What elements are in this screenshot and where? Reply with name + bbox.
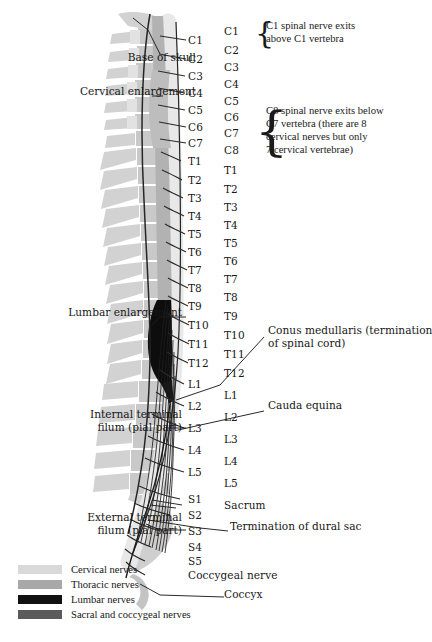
spinal-nerve-label: T1 — [188, 155, 202, 167]
vertebra-label: Sacrum — [224, 499, 266, 511]
legend-label: Cervical nerves — [71, 564, 137, 575]
c8-note-annotation: {C8 spinal nerve exits belowC7 vertebra … — [255, 105, 384, 157]
spinal-nerve-label: T11 — [188, 338, 209, 350]
vertebra-label: L2 — [224, 411, 238, 423]
spinal-nerve-label: C6 — [188, 121, 203, 133]
spinal-nerve-label: T2 — [188, 174, 202, 186]
spinal-nerve-label: S4 — [188, 541, 202, 553]
termination-of-dural-sac-label: Termination of dural sac — [230, 520, 361, 533]
cervical-enlargement-shape — [149, 70, 171, 148]
spinal-nerve-label: T10 — [188, 319, 209, 331]
spinal-nerve-label: T4 — [188, 210, 202, 222]
legend-label: Lumbar nerves — [71, 594, 135, 605]
internal-terminal-filum-label: Internal terminalfilum (pial part) — [56, 408, 182, 433]
vertebra-label: Coccyx — [224, 588, 263, 600]
spinal-nerve-label: T6 — [188, 246, 202, 258]
vertebra-label: T11 — [224, 348, 245, 360]
vertebra-label: L1 — [224, 389, 238, 401]
vertebra-label: T1 — [224, 164, 238, 176]
legend-item: Cervical nerves — [18, 562, 191, 577]
vertebra-label: C2 — [224, 44, 239, 56]
vertebra-label: C4 — [224, 78, 239, 90]
vertebra-label: C7 — [224, 127, 239, 139]
vertebra-label: T10 — [224, 329, 245, 341]
conus-medullaris-label: Conus medullaris (terminationof spinal c… — [268, 324, 432, 350]
vertebra-label: C3 — [224, 61, 239, 73]
vertebra-label: T6 — [224, 255, 238, 267]
spinal-nerve-label: L5 — [188, 466, 202, 478]
curly-brace-icon: { — [255, 18, 274, 48]
spinal-nerve-label: T5 — [188, 228, 202, 240]
vertebra-label: C5 — [224, 95, 239, 107]
spinal-nerve-label: T3 — [188, 192, 202, 204]
legend-swatch — [18, 595, 62, 604]
lumbar-enlargement-label: Lumbar enlargement — [18, 306, 182, 319]
vertebra-label: L4 — [224, 455, 238, 467]
cauda-equina-label: Cauda equina — [268, 399, 342, 412]
c1-note-annotation: {C1 spinal nerve exitsabove C1 vertebra — [255, 20, 355, 46]
spinal-nerve-label: Coccygeal nerve — [188, 569, 278, 581]
vertebra-label: T8 — [224, 291, 238, 303]
vertebra-label: T12 — [224, 367, 245, 379]
spinal-nerve-label: L3 — [188, 422, 202, 434]
legend-item: Sacral and coccygeal nerves — [18, 607, 191, 622]
cervical-enlargement-label: Cervical enlargement — [28, 85, 196, 98]
spinal-nerve-label: L2 — [188, 400, 202, 412]
vertebra-label: L3 — [224, 433, 238, 445]
spinal-nerve-label: T8 — [188, 282, 202, 294]
vertebra-label: T4 — [224, 219, 238, 231]
legend-swatch — [18, 565, 62, 574]
vertebra-label: T7 — [224, 273, 238, 285]
external-terminal-filum-label: External terminalfilum (pial part) — [42, 511, 182, 536]
spinal-nerve-label: C1 — [188, 34, 203, 46]
vertebra-label: T2 — [224, 183, 238, 195]
spinal-nerve-label: S2 — [188, 509, 202, 521]
spinal-nerve-label: L4 — [188, 444, 202, 456]
base-of-skull-label: Base of skull — [86, 51, 196, 64]
vertebra-label: C6 — [224, 111, 239, 123]
vertebra-label: T9 — [224, 310, 238, 322]
c1-note-text: C1 spinal nerve exitsabove C1 vertebra — [266, 20, 355, 46]
legend-item: Lumbar nerves — [18, 592, 191, 607]
legend-label: Thoracic nerves — [71, 579, 139, 590]
vertebra-label: L5 — [224, 477, 238, 489]
spinal-nerve-label: S1 — [188, 493, 202, 505]
vertebra-label: C1 — [224, 25, 239, 37]
spinal-nerve-label: S3 — [188, 525, 202, 537]
spinal-nerve-label: C3 — [188, 70, 203, 82]
curly-brace-icon: { — [255, 105, 288, 157]
legend-label: Sacral and coccygeal nerves — [71, 609, 191, 620]
vertebra-label: T5 — [224, 237, 238, 249]
legend-item: Thoracic nerves — [18, 577, 191, 592]
legend: Cervical nervesThoracic nervesLumbar ner… — [18, 562, 191, 622]
legend-swatch — [18, 580, 62, 589]
spinal-nerve-label: C7 — [188, 137, 203, 149]
spinal-nerve-label: L1 — [188, 378, 202, 390]
legend-swatch — [18, 610, 62, 619]
spinal-nerve-label: C5 — [188, 104, 203, 116]
vertebra-label: T3 — [224, 201, 238, 213]
vertebra-label: C8 — [224, 144, 239, 156]
spinal-nerve-label: T9 — [188, 300, 202, 312]
spinal-nerve-label: T12 — [188, 357, 209, 369]
spinal-nerve-label: T7 — [188, 264, 202, 276]
